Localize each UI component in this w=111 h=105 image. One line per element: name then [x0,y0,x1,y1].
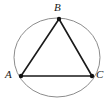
circumscribed-circle [14,18,100,97]
segment-BC [59,19,92,76]
vertex-dot-B [57,17,61,21]
vertex-dot-A [19,74,23,78]
vertex-dot-C [90,74,94,78]
segment-AB [21,19,59,76]
figure-canvas [0,0,111,105]
vertex-label-a: A [5,69,12,80]
vertex-label-b: B [54,2,61,13]
geometry-figure: A B C [0,0,111,105]
vertex-label-c: C [96,69,103,80]
